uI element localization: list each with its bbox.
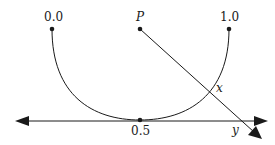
label-point-p: P: [135, 10, 145, 24]
point-p: [138, 27, 143, 32]
point-right-end: [227, 27, 232, 32]
label-intersection-x: x: [216, 81, 223, 95]
label-intersection-y: y: [231, 123, 239, 137]
label-right-end: 1.0: [220, 10, 239, 24]
right-arrowhead-icon: [254, 116, 268, 126]
left-arrowhead-icon: [15, 116, 29, 126]
diagonal-line: [140, 29, 254, 132]
label-bottom: 0.5: [131, 124, 150, 138]
label-left-end: 0.0: [44, 10, 63, 24]
point-bottom: [138, 118, 143, 123]
diagram-canvas: 0.0 P 1.0 0.5 x y: [0, 0, 275, 145]
point-left-end: [50, 27, 55, 32]
semicircle-arc: [52, 29, 229, 120]
